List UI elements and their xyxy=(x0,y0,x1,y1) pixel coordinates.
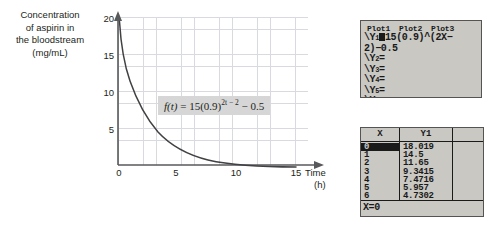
table-column-y1[interactable]: 18.019 14.5 11.65 9.3415 7.4716 5.957 4.… xyxy=(400,142,453,200)
y5-label: \Y xyxy=(364,85,375,96)
table-header-y1: Y1 xyxy=(400,128,453,141)
table-column-blank xyxy=(453,142,483,200)
equation-equals: = xyxy=(180,100,186,112)
y6-label: \Y xyxy=(364,95,375,98)
y-tick-15: 15 xyxy=(98,50,114,61)
calculator-function-editor-screen[interactable]: Plot1 Plot2 Plot3 \Y115(0.9)^(2X− 2)−0.5… xyxy=(360,20,482,98)
y3-equals: = xyxy=(379,64,385,75)
y-tick-10: 10 xyxy=(98,87,114,98)
y4-label: \Y xyxy=(364,74,375,85)
table-header-blank xyxy=(453,128,483,141)
table-column-x[interactable]: 0 1 2 3 4 5 6 xyxy=(361,142,400,200)
table-footer-x-value: X=0 xyxy=(361,200,483,214)
y-tick-20: 20 xyxy=(98,13,114,24)
x-tick-5: 5 xyxy=(168,167,184,178)
x-axis-unit: (h) xyxy=(314,179,326,190)
y4-equals: = xyxy=(379,74,385,85)
x-tick-10: 10 xyxy=(228,167,244,178)
x-tick-15: 15 xyxy=(288,167,304,178)
equation-coefficient: 15(0.9) xyxy=(189,100,221,112)
table-body: 0 1 2 3 4 5 6 18.019 14.5 11.65 9.3415 7… xyxy=(361,142,483,200)
axes-and-curve xyxy=(0,0,348,237)
table-row[interactable]: 6 xyxy=(361,192,399,200)
x-tick-0: 0 xyxy=(111,167,127,178)
equation-lhs: f(t) xyxy=(164,100,177,112)
y3-label: \Y xyxy=(364,64,375,75)
table-header-x: X xyxy=(361,128,400,141)
calculator-table-screen[interactable]: X Y1 0 1 2 3 4 5 6 18.019 14.5 11.65 9.3… xyxy=(360,127,484,217)
equation-exponent: 2t − 2 xyxy=(221,98,239,107)
y1-expression[interactable]: 15(0.9)^(2X− xyxy=(385,32,452,43)
y2-label: \Y xyxy=(364,53,375,64)
y6-equals: = xyxy=(379,95,385,98)
x-axis-title: Time xyxy=(305,167,349,179)
y6-subscript: 6 xyxy=(375,97,379,98)
y5-equals: = xyxy=(379,85,385,96)
equation-constant: − 0.5 xyxy=(242,100,265,112)
y1-expression-wrapped[interactable]: 2)−0.5 xyxy=(364,43,398,54)
function-line-y6[interactable]: \Y6= xyxy=(361,96,481,98)
equation-annotation: f(t) = 15(0.9)2t − 2 − 0.5 xyxy=(158,96,270,115)
graph-panel: Concentration of aspirin in the bloodstr… xyxy=(0,0,348,237)
y-tick-5: 5 xyxy=(98,124,114,135)
table-header-row: X Y1 xyxy=(361,128,483,142)
y1-label: \Y xyxy=(364,32,375,43)
table-row[interactable]: 4.7302 xyxy=(400,192,452,200)
y2-equals: = xyxy=(379,53,385,64)
